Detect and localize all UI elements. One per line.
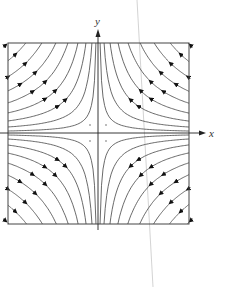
trajectory-curve	[3, 139, 92, 228]
flow-arrow-icon	[63, 164, 65, 166]
flow-arrow-icon	[23, 63, 25, 65]
y-axis-arrow-icon	[96, 29, 101, 37]
phase-portrait: x y	[0, 0, 226, 287]
flow-arrow-icon	[30, 91, 33, 93]
flow-arrow-icon	[176, 84, 179, 86]
trajectory-curve	[117, 152, 193, 228]
trajectory-curve	[151, 186, 193, 228]
flow-arrow-icon	[3, 219, 5, 221]
flow-arrow-icon	[43, 183, 45, 185]
trajectory-curve	[3, 38, 30, 65]
x-axis-arrow-icon	[199, 131, 206, 136]
flow-arrow-icon	[43, 166, 46, 168]
trajectory-curve	[3, 38, 96, 131]
flow-arrow-icon	[170, 63, 172, 65]
flow-arrow-icon	[55, 106, 58, 108]
origin-mark	[105, 124, 107, 126]
flow-arrow-icon	[3, 45, 5, 47]
x-axis-label: x	[208, 127, 214, 139]
flow-arrow-icon	[150, 183, 152, 185]
flow-arrow-icon	[180, 210, 182, 212]
flow-arrow-icon	[138, 158, 141, 160]
flow-arrow-icon	[18, 180, 21, 182]
trajectory-curve	[3, 173, 58, 228]
origin-mark	[89, 140, 91, 142]
flow-arrow-icon	[160, 72, 162, 74]
flow-arrow-icon	[53, 174, 55, 176]
trajectory-curve	[138, 173, 193, 228]
flow-arrow-icon	[150, 81, 152, 83]
flow-arrow-icon	[130, 164, 132, 166]
flow-arrow-icon	[151, 166, 154, 168]
origin-mark	[105, 140, 107, 142]
flow-arrow-icon	[151, 99, 154, 101]
trajectory-curve	[3, 135, 96, 228]
flow-arrow-icon	[160, 192, 162, 194]
origin-mark	[89, 124, 91, 126]
trajectory-curve	[3, 186, 45, 228]
flow-arrow-icon	[13, 54, 15, 56]
trajectory-curve	[117, 38, 193, 114]
flow-arrow-icon	[43, 99, 46, 101]
flow-arrow-icon	[63, 100, 65, 102]
flow-arrow-icon	[163, 91, 166, 93]
trajectory-curve	[100, 38, 193, 131]
flow-arrow-icon	[30, 173, 33, 175]
flow-arrow-icon	[176, 180, 179, 182]
trajectory-curve	[3, 38, 87, 122]
flow-arrow-icon	[138, 106, 141, 108]
trajectory-curve	[3, 38, 58, 93]
trajectory-curve	[3, 38, 45, 80]
flow-arrow-icon	[18, 84, 21, 86]
flow-arrow-icon	[190, 219, 192, 221]
flow-arrow-icon	[190, 45, 192, 47]
flow-arrow-icon	[53, 91, 55, 93]
flow-arrow-icon	[13, 210, 15, 212]
trajectory-curve	[3, 144, 87, 228]
flow-arrow-icon	[55, 158, 58, 160]
flow-arrow-icon	[33, 72, 35, 74]
trajectory-curve	[3, 38, 92, 127]
trajectory-curve	[109, 144, 193, 228]
trajectory-curve	[104, 139, 193, 228]
flow-arrow-icon	[163, 173, 166, 175]
plot-frame	[8, 43, 189, 224]
flow-arrow-icon	[43, 81, 45, 83]
flow-arrow-icon	[23, 201, 25, 203]
trajectory-curve	[3, 152, 79, 228]
flow-arrow-icon	[33, 192, 35, 194]
flow-arrow-icon	[130, 100, 132, 102]
y-axis-label: y	[94, 15, 100, 27]
trajectory-curve	[3, 38, 79, 114]
flow-arrow-icon	[140, 174, 142, 176]
trajectory-curve	[151, 38, 193, 80]
flow-arrow-icon	[180, 54, 182, 56]
flow-arrow-icon	[170, 201, 172, 203]
trajectory-curve	[109, 38, 193, 122]
trajectory-curve	[100, 135, 193, 228]
trajectory-curve	[138, 38, 193, 93]
trajectory-curve	[104, 38, 193, 127]
